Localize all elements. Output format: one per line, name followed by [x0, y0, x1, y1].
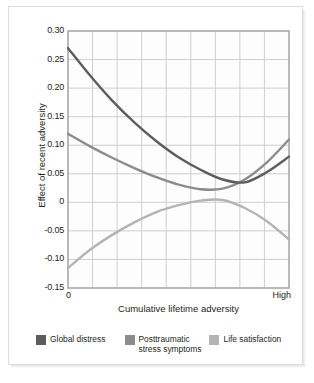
y-tick-label: -0.05 [22, 225, 64, 235]
legend-item-global-distress: Global distress [36, 334, 119, 345]
legend-swatch-posttraumatic-stress-symptoms [125, 335, 135, 345]
y-tick-label: 0.15 [22, 111, 64, 121]
y-tick-label: 0 [22, 196, 64, 206]
legend-label-posttraumatic-stress-symptoms: Posttraumatic stress symptoms [139, 334, 202, 354]
y-tick-label: -0.10 [22, 253, 64, 263]
x-tick-label: 0 [66, 290, 71, 300]
y-tick-label: -0.15 [22, 282, 64, 292]
y-tick-label: 0.20 [22, 82, 64, 92]
legend-swatch-life-satisfaction [209, 335, 219, 345]
y-tick-label: 0.10 [22, 139, 64, 149]
legend-label-global-distress: Global distress [50, 334, 105, 344]
legend-item-posttraumatic-stress-symptoms: Posttraumatic stress symptoms [125, 334, 204, 354]
x-axis-title: Cumulative lifetime adversity [68, 303, 289, 314]
legend-swatch-global-distress [36, 335, 46, 345]
legend-item-life-satisfaction: Life satisfaction [209, 334, 292, 345]
y-tick-label: 0.25 [22, 54, 64, 64]
y-tick-label: 0.05 [22, 168, 64, 178]
y-tick-label: 0.30 [22, 25, 64, 35]
x-tick-label: High [267, 290, 291, 300]
figure-container: Effect of recent adversity Cumulative li… [0, 0, 314, 383]
chart-legend: Global distress Posttraumatic stress sym… [36, 334, 292, 354]
legend-label-life-satisfaction: Life satisfaction [223, 334, 281, 344]
